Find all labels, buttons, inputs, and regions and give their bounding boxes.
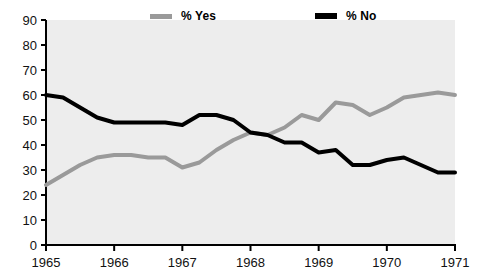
- x-axis-labels: 1965196619671968196919701971: [32, 255, 470, 270]
- y-tick-label: 0: [30, 238, 37, 253]
- y-tick-label: 30: [23, 163, 37, 178]
- plot-area-wrapper: 0102030405060708090 19651966196719681969…: [0, 0, 499, 280]
- y-tick-label: 80: [23, 38, 37, 53]
- y-tick-label: 90: [23, 13, 37, 28]
- y-axis-labels: 0102030405060708090: [23, 13, 37, 253]
- y-tick-label: 70: [23, 63, 37, 78]
- x-tick-label: 1970: [372, 255, 401, 270]
- y-tick-label: 40: [23, 138, 37, 153]
- x-tick-label: 1971: [441, 255, 470, 270]
- x-tick-label: 1967: [168, 255, 197, 270]
- chart-container: % Yes % No 0102030405060708090 196519661…: [0, 0, 499, 280]
- y-tick-label: 10: [23, 213, 37, 228]
- x-tick-label: 1966: [100, 255, 129, 270]
- x-tick-label: 1965: [32, 255, 61, 270]
- line-chart-svg: 0102030405060708090 19651966196719681969…: [0, 0, 499, 280]
- x-tick-label: 1968: [236, 255, 265, 270]
- x-tick-label: 1969: [304, 255, 333, 270]
- y-tick-label: 20: [23, 188, 37, 203]
- y-tick-label: 60: [23, 88, 37, 103]
- y-tick-label: 50: [23, 113, 37, 128]
